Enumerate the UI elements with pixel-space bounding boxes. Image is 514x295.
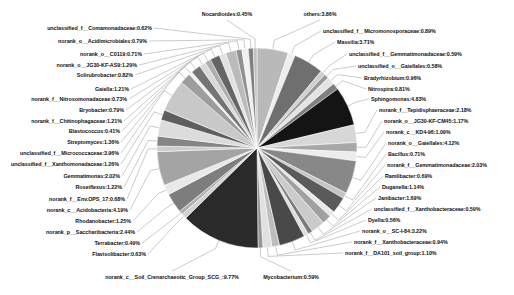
pie-slice-label: norank_f__Env.OPS_17:0.68% — [49, 196, 125, 203]
leader-line — [347, 99, 369, 106]
pie-slice-label: Janibacter:1.69% — [378, 195, 421, 202]
pie-slice-label: norank_o__SC-I-84:3.22% — [362, 228, 427, 235]
pie-slice-label: Bryobacter:0.79% — [79, 107, 124, 114]
pie-slice-label: unclassified_f__Gemmatimonadaceae:0.59% — [349, 51, 462, 58]
pie-slice-label: Massilia:3.71% — [337, 39, 374, 46]
pie-slice-label: Duganella:1.14% — [382, 184, 424, 191]
pie-slice-label: norank_o__Gaiellales:4.12% — [388, 140, 459, 147]
pie-slice-label: others:3.86% — [304, 11, 337, 18]
pie-slice-label: norank_o__JG30-KF-CM45:1.17% — [384, 118, 468, 125]
pie-slice-label: Nitrospira:0.81% — [368, 86, 410, 93]
pie-slice-label: norank_p__Saccharibacteria:2.44% — [46, 229, 135, 236]
leader-line — [154, 28, 251, 49]
leader-line — [291, 31, 321, 55]
pie-slice-label: unclassified_f__Micromonosporaceae:0.89% — [323, 28, 436, 35]
pie-slice-label: unclassified_f__Micrococcaceae:3.96% — [20, 150, 119, 157]
pie-slice-label: Roseiflexus:1.22% — [76, 184, 123, 191]
leader-line — [142, 212, 182, 243]
pie-slice-label: norank_f__Tepidisphaeraceae:2.18% — [379, 107, 471, 114]
pie-slice-label: norank_f__DA101_soil_group:1.10% — [345, 250, 437, 257]
leader-line — [130, 169, 160, 211]
pie-slice-label: Bradyrhizobium:0.96% — [364, 75, 421, 82]
pie-slice-label: norank_c__Acidobacteria:4.19% — [47, 207, 128, 214]
pie-slice-label: Gemmatimonas:2.02% — [63, 173, 120, 180]
pie-slice-label: Dyella:0.56% — [368, 217, 400, 224]
leader-line — [335, 81, 366, 89]
pie-slice-label: Gaiella:1.21% — [95, 86, 129, 93]
leader-line — [172, 240, 219, 272]
pie-slice-label: Bacillus:0.71% — [388, 151, 425, 158]
leader-line — [322, 54, 347, 74]
leader-line — [149, 40, 245, 50]
pie-slice-label: Solirubrobacter:0.82% — [77, 72, 133, 79]
pie-slice-label: Flavisolibacter:0.63% — [92, 251, 146, 258]
leader-line — [260, 247, 291, 271]
pie-slice-label: Ramlibacter:0.69% — [385, 173, 432, 180]
pie-slice-label: Sphingomonas:4.83% — [371, 96, 426, 103]
pie-slice-label: norank_c__Soil_Crenarchaeotic_Group_SCG_… — [105, 274, 239, 281]
pie-slice-label: Terrabacter:0.49% — [95, 240, 141, 247]
pie-slice-label: norank_o__Acidimicrobiales:0.79% — [58, 38, 147, 45]
pie-slice-label: Blastococcus:0.41% — [69, 128, 120, 135]
leader-line — [227, 20, 255, 49]
leader-line — [355, 110, 377, 134]
leader-line — [308, 42, 335, 63]
pie-slice-label: norank_o__JG30-KF-AS9:1.29% — [57, 62, 137, 69]
pie-slice-label: norank_f__Chitinophagaceae:1.21% — [31, 118, 122, 125]
pie-slice-label: Mycobacterium:0.59% — [263, 274, 319, 281]
leader-line — [273, 20, 320, 50]
pie-slice-label: unclassified_f__Xanthobacteraceae:0.59% — [374, 206, 481, 213]
pie-slice-label: Nocardioides:0.45% — [202, 11, 252, 18]
leader-line — [127, 149, 158, 199]
pie-slice-label: Streptomyces:1.36% — [67, 139, 119, 146]
pie-slice-group — [157, 48, 357, 248]
pie-slice-label: norank_f__Nitrosomonadaceae:0.73% — [31, 96, 127, 103]
pie-slice-label: unclassified_o__Gaiellales:0.58% — [358, 63, 442, 70]
leader-line — [330, 75, 362, 82]
pie-slice-label: unclassified_f__Comamonadaceae:0.62% — [47, 25, 152, 32]
pie-chart-figure: Nocardioides:0.45%others:3.86%unclassifi… — [0, 0, 514, 295]
pie-slice-label: norank_c__KD4-96:1.09% — [386, 129, 451, 136]
pie-slice-label: norank_o__C0119:0.71% — [80, 51, 142, 58]
leader-line — [356, 132, 384, 157]
pie-slice-label: norank_f__Gemmatimonadaceae:2.03% — [387, 162, 487, 169]
pie-slice-label: norank_f__Xanthobacteraceae:0.94% — [354, 239, 448, 246]
leader-line — [148, 216, 185, 254]
leader-line — [137, 203, 174, 232]
pie-slice-label: unclassified_f__Xanthomonadaceae:1.26% — [11, 161, 119, 168]
leader-line — [122, 126, 160, 176]
pie-slice-label: Rhodanobacter:1.25% — [75, 218, 131, 225]
